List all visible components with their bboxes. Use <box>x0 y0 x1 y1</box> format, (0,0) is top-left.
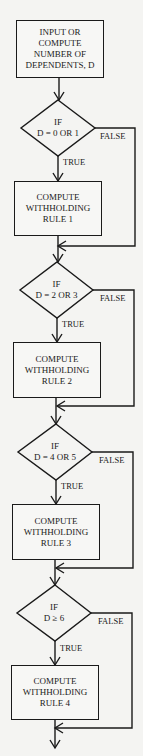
start-box-input-dependents: INPUT OR COMPUTE NUMBER OF DEPENDENTS, D <box>16 20 104 78</box>
decision-1-text: IF D = 0 OR 1 <box>21 117 95 139</box>
decision-2-if: IF <box>20 279 93 290</box>
process-box-line: WITHHOLDING <box>23 687 87 698</box>
process-box-line: WITHHOLDING <box>26 203 90 214</box>
decision-1-false-label: FALSE <box>100 131 125 141</box>
decision-4-condition: D ≥ 6 <box>17 613 91 624</box>
decision-2-text: IF D = 2 OR 3 <box>20 279 93 301</box>
decision-4-if: IF <box>17 602 91 613</box>
decision-2-false-label: FALSE <box>100 293 125 303</box>
decision-3-true-label: TRUE <box>61 481 83 491</box>
process-box-line: COMPUTE <box>25 354 89 365</box>
process-box-line: COMPUTE <box>23 676 87 687</box>
process-box-line: RULE 3 <box>24 538 88 549</box>
decision-4-text: IF D ≥ 6 <box>17 602 91 624</box>
process-box-rule-1: COMPUTE WITHHOLDING RULE 1 <box>14 181 102 236</box>
decision-1-true-label: TRUE <box>63 157 85 167</box>
process-box-line: RULE 1 <box>26 214 90 225</box>
start-box-line: DEPENDENTS, D <box>26 60 95 71</box>
decision-4-false-label: FALSE <box>98 616 123 626</box>
process-box-line: WITHHOLDING <box>25 365 89 376</box>
process-box-rule-4: COMPUTE WITHHOLDING RULE 4 <box>11 665 99 720</box>
process-box-line: RULE 2 <box>25 376 89 387</box>
decision-4-true-label: TRUE <box>60 643 82 653</box>
process-box-line: COMPUTE <box>24 516 88 527</box>
process-box-line: RULE 4 <box>23 698 87 709</box>
process-box-line: WITHHOLDING <box>24 527 88 538</box>
decision-2-condition: D = 2 OR 3 <box>20 290 93 301</box>
decision-3-text: IF D = 4 OR 5 <box>18 441 92 463</box>
process-box-line: COMPUTE <box>26 192 90 203</box>
decision-3-condition: D = 4 OR 5 <box>18 452 92 463</box>
process-box-rule-2: COMPUTE WITHHOLDING RULE 2 <box>13 342 101 398</box>
decision-2-true-label: TRUE <box>62 319 84 329</box>
start-box-line: INPUT OR <box>26 27 95 38</box>
decision-3-if: IF <box>18 441 92 452</box>
decision-1-if: IF <box>21 117 95 128</box>
decision-1-condition: D = 0 OR 1 <box>21 128 95 139</box>
start-box-line: NUMBER OF <box>26 49 95 60</box>
decision-3-false-label: FALSE <box>99 455 124 465</box>
start-box-line: COMPUTE <box>26 38 95 49</box>
process-box-rule-3: COMPUTE WITHHOLDING RULE 3 <box>12 504 100 560</box>
